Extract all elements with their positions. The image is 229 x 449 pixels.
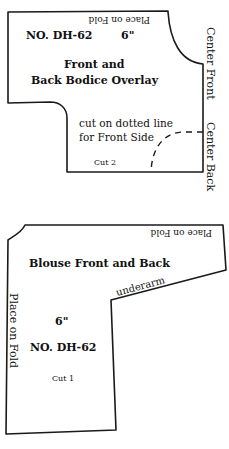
- piece2-size: 6": [55, 315, 68, 328]
- center-back-label: Center Back: [204, 122, 217, 191]
- piece2-pattern-number: NO. DH-62: [30, 341, 96, 354]
- piece1-pattern-number: NO. DH-62: [26, 29, 92, 42]
- piece1-size: 6": [121, 29, 134, 42]
- underarm-label: underarm: [115, 274, 167, 298]
- piece2-place-on-fold-top-label: Place on Fold: [150, 228, 212, 238]
- piece2-place-on-fold-side-label: Place on Fold: [7, 293, 20, 368]
- piece2-cut-count: Cut 1: [52, 374, 74, 383]
- piece1-title-line2: Back Bodice Overlay: [31, 74, 158, 87]
- center-front-label: Center Front: [204, 27, 217, 100]
- piece1-cut-count: Cut 2: [94, 158, 116, 167]
- dotted-line-note-line1: cut on dotted line: [79, 117, 173, 129]
- dotted-line-note-line2: for Front Side: [79, 131, 154, 143]
- piece1-place-on-fold-label: Place on Fold: [88, 15, 150, 25]
- piece2-title: Blouse Front and Back: [29, 257, 170, 270]
- front-side-dotted-cut-line: [151, 132, 203, 172]
- piece1-title-line1: Front and: [64, 58, 124, 71]
